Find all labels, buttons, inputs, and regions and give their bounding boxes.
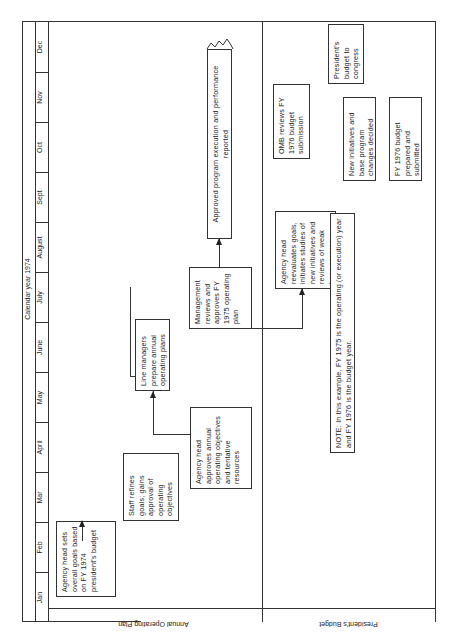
month-april: April bbox=[36, 422, 48, 472]
box-agency-sets-goals: Agency head sets overall goals based on … bbox=[56, 521, 116, 597]
frame-right bbox=[22, 21, 435, 22]
calendar-year-header: Calendar year 1974 bbox=[24, 229, 31, 349]
frame-top bbox=[22, 22, 23, 622]
arrow-to-staff bbox=[79, 520, 85, 527]
frame-bottom bbox=[435, 21, 436, 622]
month-feb: Feb bbox=[36, 522, 48, 572]
section-divider-full bbox=[48, 608, 435, 609]
connector-mgmt-to-reeval-v bbox=[252, 328, 302, 329]
box-line-managers: Line managers prepare annual operating p… bbox=[135, 319, 170, 391]
connector-goals-up bbox=[82, 540, 83, 541]
connector-mgmt-to-reeval-h bbox=[302, 289, 303, 329]
box-omb-reviews: OMB reviews FY 1976 budget submission bbox=[273, 84, 310, 159]
box-new-initiatives: New initiatives and base program changes… bbox=[343, 97, 376, 181]
box-agency-approves: Agency head approves annual operating ob… bbox=[190, 407, 252, 489]
arrow-to-execution bbox=[216, 238, 222, 245]
month-dec: Dec bbox=[36, 22, 48, 72]
box-agency-reevaluates: Agency head reevaluates goals, initiates… bbox=[275, 211, 336, 289]
box-execution: Approved program execution and performan… bbox=[207, 49, 232, 239]
month-oct: Oct bbox=[36, 122, 48, 172]
month-july: July bbox=[36, 272, 48, 322]
month-jan: Jan bbox=[36, 572, 48, 622]
month-sept: Sept bbox=[36, 172, 48, 222]
month-may: May bbox=[36, 372, 48, 422]
month-june: June bbox=[36, 322, 48, 372]
horizontal-section-divider bbox=[262, 22, 263, 622]
month-band-bottom bbox=[48, 22, 49, 622]
connector-approves-to-line-v bbox=[153, 434, 190, 435]
month-august: August bbox=[36, 222, 48, 272]
connector-line-to-mgmt-h bbox=[130, 287, 131, 377]
note-box: NOTE: In this example, FY 1975 is the op… bbox=[330, 213, 355, 453]
zigzag-continuation-icon bbox=[205, 37, 235, 51]
arrow-to-reevaluate bbox=[299, 288, 305, 295]
rotated-diagram-canvas: Calendar year 1974 JanFebMarAprilMayJune… bbox=[0, 0, 454, 639]
row-label-presidents-budget: President's Budget bbox=[274, 621, 424, 628]
month-band: JanFebMarAprilMayJuneJulyAugustSeptOctNo… bbox=[36, 22, 48, 622]
month-mar: Mar bbox=[36, 472, 48, 522]
box-management-reviews: Management reviews and approves FY 1975 … bbox=[189, 267, 252, 329]
row-label-annual-operating-plan: Annual Operating Plan bbox=[79, 621, 229, 628]
box-fy1976-budget: FY 1976 budget prepared and submitted bbox=[389, 97, 422, 181]
box-staff-refines: Staff refines goals; gains approval of o… bbox=[123, 453, 179, 521]
month-nov: Nov bbox=[36, 72, 48, 122]
box-presidents-budget: President's budget to congress bbox=[328, 24, 364, 84]
arrow-to-line-managers bbox=[150, 391, 156, 398]
